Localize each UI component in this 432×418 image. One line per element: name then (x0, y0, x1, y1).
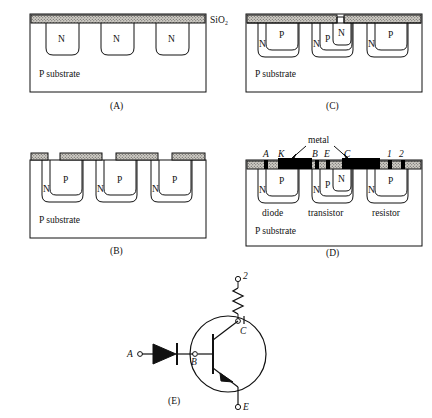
well-label-a-1: N (58, 34, 65, 44)
panel-b-drawing: N P N P N P P substrate (B) (30, 152, 220, 257)
oxide-layer-c-right (344, 15, 421, 23)
panel-e-drawing: 2 C E B A (E) (120, 268, 320, 416)
metal-contact-b (315, 160, 319, 169)
well-outer-label-c-2: N (313, 39, 320, 49)
panel-d: metal A K B E C 1 2 N P diode N (246, 134, 432, 259)
panel-d-drawing: metal A K B E C 1 2 N P diode N (246, 134, 432, 259)
well-inner-label-d-1: P (279, 176, 284, 186)
well-outer-label-d-2: N (313, 185, 320, 195)
well-inner-label-b-2: P (117, 175, 122, 185)
panel-caption-c: (C) (326, 101, 339, 112)
well-outer-label-b-2: N (97, 184, 104, 194)
substrate-outline-b (30, 160, 206, 238)
anode-label: A (126, 349, 133, 359)
metal-contact-e (326, 160, 330, 169)
panel-caption-b: (B) (110, 246, 123, 257)
oxide-layer-a (31, 15, 205, 23)
terminal-label-b: B (312, 149, 318, 159)
node-2-label: 2 (243, 271, 248, 281)
metal-contact-a (264, 160, 268, 169)
panel-caption-a: (A) (110, 101, 123, 112)
panel-c-drawing: N P N P N N P P substrate (C) (246, 14, 432, 114)
panel-c: N P N P N N P P substrate (C) (246, 14, 432, 114)
anode-terminal (138, 352, 143, 357)
device-label-diode: diode (262, 208, 283, 218)
oxide-strip-b-4 (172, 153, 205, 160)
oxide-label-a: SiO₂ (210, 15, 228, 25)
oxide-strip-b-1 (31, 153, 48, 160)
substrate-label-b: P substrate (39, 215, 80, 225)
collector-label: C (240, 326, 247, 336)
metal-label: metal (308, 135, 329, 145)
substrate-label-d: P substrate (255, 226, 296, 236)
terminal-label-1: 1 (387, 149, 392, 159)
terminal-label-c: C (344, 149, 351, 159)
metal-contact-k (278, 158, 312, 169)
well-inner-label-d-2: P (325, 180, 330, 190)
panel-b: N P N P N P P substrate (B) (30, 152, 220, 257)
well-inner-label-c-3: P (388, 30, 393, 40)
terminal-label-2: 2 (399, 149, 404, 159)
substrate-outline-a (30, 14, 206, 92)
well-outer-label-d-1: N (259, 185, 266, 195)
oxide-layer-c-left (247, 15, 337, 23)
node-2-terminal (235, 276, 240, 281)
well-inner-label-c-2: P (325, 34, 330, 44)
well-outer-label-c-3: N (368, 39, 375, 49)
metal-contact-2 (401, 160, 405, 169)
well-outer-label-b-1: N (43, 184, 50, 194)
diode-triangle-icon (153, 344, 176, 364)
resistor-symbol (233, 288, 243, 314)
terminal-label-e: E (323, 149, 330, 159)
substrate-outline-c (246, 14, 422, 92)
substrate-label-a: P substrate (39, 69, 80, 79)
device-label-resistor: resistor (372, 208, 401, 218)
terminal-label-k: K (277, 149, 285, 159)
well-outer-label-c-1: N (259, 39, 266, 49)
well-inner-label-c-1: P (279, 30, 284, 40)
transistor-collector-lead (213, 321, 238, 340)
emitter-arrow-icon (220, 373, 233, 382)
panel-e: 2 C E B A (E) (120, 268, 320, 416)
oxide-strip-b-3 (116, 153, 158, 160)
panel-caption-e: (E) (168, 396, 180, 407)
well-label-a-3: N (168, 34, 175, 44)
well-label-a-2: N (113, 34, 120, 44)
metal-contact-1 (388, 160, 392, 169)
base-terminal (193, 352, 198, 357)
emitter-terminal (235, 404, 240, 409)
device-label-transistor: transistor (308, 208, 344, 218)
substrate-label-c: P substrate (255, 69, 296, 79)
well-core-label-c-2: N (338, 28, 345, 38)
oxide-layer-d (247, 161, 421, 169)
well-inner-label-b-1: P (63, 175, 68, 185)
well-inner-label-b-3: P (172, 175, 177, 185)
panel-a: N N N P substrate SiO₂ (A) (30, 14, 220, 114)
metal-contact-c (342, 158, 380, 169)
oxide-notch-c (337, 17, 344, 23)
emitter-label: E (242, 402, 249, 412)
panel-caption-d: (D) (326, 248, 339, 259)
base-label: B (191, 357, 197, 367)
panel-a-drawing: N N N P substrate SiO₂ (A) (30, 14, 220, 114)
well-core-label-d-2: N (338, 174, 345, 184)
oxide-strip-b-2 (60, 153, 102, 160)
well-outer-label-d-3: N (368, 185, 375, 195)
well-inner-label-d-3: P (388, 176, 393, 186)
well-outer-label-b-3: N (152, 184, 159, 194)
terminal-label-a: A (262, 149, 269, 159)
